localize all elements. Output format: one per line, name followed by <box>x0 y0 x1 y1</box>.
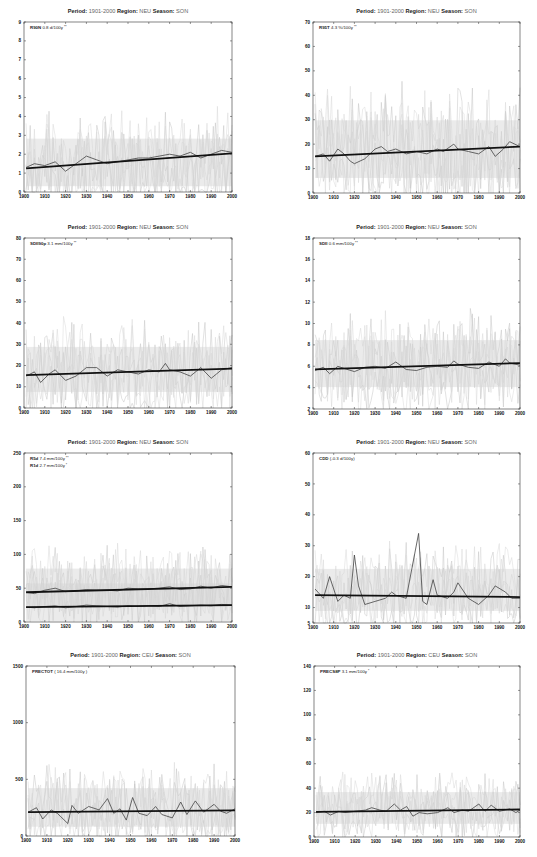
trend-annotation: PRECTOT ( 16.4 mm/100y ) <box>32 669 88 674</box>
station-series <box>28 762 235 836</box>
title-region-label: Region: <box>117 8 139 14</box>
y-tick-label: 0 <box>307 191 310 196</box>
y-tick-label: 60 <box>305 451 311 456</box>
title-season-label: Season: <box>153 224 176 230</box>
x-tick-label: 1980 <box>473 625 484 630</box>
title-region-label: Region: <box>119 652 141 658</box>
x-tick-label: 1910 <box>40 410 51 415</box>
x-tick-label: 1970 <box>164 624 175 629</box>
chart-panel-prectot: Period: 1901-2000 Region: CEU Season: SO… <box>0 644 268 857</box>
title-region-value: NEU <box>428 8 441 14</box>
x-tick-label: 1930 <box>370 411 381 416</box>
x-tick-label: 1960 <box>144 194 155 199</box>
y-tick-label: 30 <box>305 543 311 548</box>
title-season-label: Season: <box>442 652 465 658</box>
x-tick-label: 1940 <box>104 838 115 843</box>
y-tick-label: 0 <box>18 190 21 195</box>
x-tick-label: 1970 <box>167 838 178 843</box>
x-tick-label: 1930 <box>371 839 382 844</box>
y-tick-label: 1 <box>18 171 21 176</box>
title-period-value: 1901-2000 <box>89 439 117 445</box>
title-period-label: Period: <box>70 652 91 658</box>
x-tick-label: 2000 <box>515 625 526 630</box>
y-tick-label: 60 <box>306 761 312 766</box>
title-region-value: NEU <box>428 224 441 230</box>
title-region-label: Region: <box>405 439 427 445</box>
y-tick-label: 0 <box>308 835 311 840</box>
chart-svg: 1900191019201930194019501960197019801990… <box>0 644 268 857</box>
y-tick-label: 1500 <box>13 664 24 669</box>
trend-annotation: SDII 0.6 mm/100y ** <box>319 241 358 247</box>
chart-panel-precs8p: Period: 1901-2000 Region: CEU Season: SO… <box>268 644 537 857</box>
x-tick-label: 1940 <box>102 410 113 415</box>
x-tick-label: 1930 <box>370 195 381 200</box>
title-period-value: 1901-2000 <box>89 8 117 14</box>
x-tick-label: 1920 <box>60 624 71 629</box>
title-season-value: SON <box>176 439 188 445</box>
y-tick-label: 0 <box>20 834 23 839</box>
y-tick-label: 10 <box>305 321 311 326</box>
y-tick-label: 5 <box>307 621 310 626</box>
x-tick-label: 1950 <box>411 195 422 200</box>
chart-panel-sdii90p: Period: 1901-2000 Region: NEU Season: SO… <box>0 215 268 430</box>
y-tick-label: 4 <box>307 385 310 390</box>
x-tick-label: 1970 <box>453 625 464 630</box>
y-tick-label: 8 <box>18 38 21 43</box>
y-tick-label: 40 <box>305 93 311 98</box>
station-series <box>26 106 232 192</box>
x-tick-label: 2000 <box>227 410 238 415</box>
y-tick-label: 14 <box>305 278 311 283</box>
y-tick-label: 80 <box>16 236 22 241</box>
chart-title: Period: 1901-2000 Region: NEU Season: SO… <box>24 8 232 14</box>
y-tick-label: 8 <box>307 342 310 347</box>
y-tick-label: 20 <box>16 363 22 368</box>
chart-svg: 1900191019201930194019501960197019801990… <box>0 215 268 430</box>
chart-title: Period: 1901-2000 Region: NEU Season: SO… <box>313 439 520 445</box>
x-tick-label: 1960 <box>144 624 155 629</box>
x-tick-label: 1900 <box>19 194 30 199</box>
y-tick-label: 10 <box>16 384 22 389</box>
x-tick-label: 1980 <box>473 411 484 416</box>
title-season-value: SON <box>465 652 477 658</box>
title-season-value: SON <box>179 652 191 658</box>
y-tick-label: 20 <box>306 810 312 815</box>
title-region-value: NEU <box>428 439 441 445</box>
x-tick-label: 1920 <box>350 839 361 844</box>
chart-title: Period: 1901-2000 Region: CEU Season: SO… <box>314 652 520 658</box>
x-tick-label: 1960 <box>432 195 443 200</box>
trend-annotation: R1d 2.7 mm/100y * <box>30 463 68 469</box>
x-tick-label: 1990 <box>209 838 220 843</box>
y-tick-label: 6 <box>18 76 21 81</box>
x-tick-label: 1940 <box>391 625 402 630</box>
x-tick-label: 1920 <box>60 410 71 415</box>
title-region-label: Region: <box>405 224 427 230</box>
x-tick-label: 1950 <box>123 624 134 629</box>
station-series <box>26 316 232 408</box>
title-period-value: 1901-2000 <box>377 439 405 445</box>
y-tick-label: 40 <box>16 321 22 326</box>
chart-svg: 1900191019201930194019501960197019801990… <box>0 430 268 644</box>
x-tick-label: 1960 <box>432 625 443 630</box>
station-series <box>316 772 520 837</box>
x-tick-label: 2000 <box>515 411 526 416</box>
x-tick-label: 1920 <box>349 625 360 630</box>
title-region-value: NEU <box>139 8 152 14</box>
title-period-value: 1901-2000 <box>377 8 405 14</box>
y-tick-label: 50 <box>16 586 22 591</box>
x-tick-label: 1910 <box>42 838 53 843</box>
title-period-label: Period: <box>68 224 89 230</box>
y-tick-label: 500 <box>15 777 23 782</box>
x-tick-label: 2000 <box>227 624 238 629</box>
title-period-value: 1901-2000 <box>378 652 406 658</box>
title-region-label: Region: <box>406 652 428 658</box>
title-season-value: SON <box>176 8 188 14</box>
title-region-label: Region: <box>405 8 427 14</box>
x-tick-label: 1940 <box>391 839 402 844</box>
x-tick-label: 1990 <box>206 194 217 199</box>
station-series <box>315 541 520 623</box>
y-tick-label: 20 <box>305 574 311 579</box>
y-tick-label: 2 <box>18 152 21 157</box>
x-tick-label: 1980 <box>185 624 196 629</box>
y-tick-label: 7 <box>18 57 21 62</box>
y-tick-label: 10 <box>305 166 311 171</box>
